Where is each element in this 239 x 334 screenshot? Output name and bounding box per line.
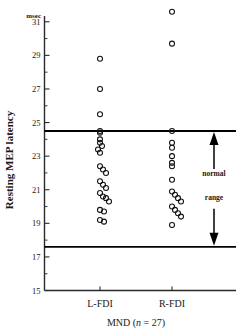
x-axis-category-label-left: L-FDI (87, 298, 113, 309)
y-axis-tick-label: 15 (32, 286, 41, 296)
y-axis-tick-label: 17 (32, 252, 41, 262)
figure-root: 151719212325272931 msec Resting MEP late… (0, 0, 239, 334)
y-axis-tick-label: 23 (32, 151, 41, 161)
normal-range-label-line2: range (205, 193, 224, 202)
y-axis-unit-label: msec (26, 12, 41, 20)
normal-range-label-line1: normal (202, 169, 225, 178)
y-axis-title: Resting MEP latency (3, 110, 15, 209)
y-axis-tick-label-group: 151719212325272931 (32, 17, 41, 296)
y-axis-tick-label: 25 (32, 118, 41, 128)
scatter-chart: 151719212325272931 msec Resting MEP late… (0, 0, 239, 334)
y-axis-tick-label: 27 (32, 84, 41, 94)
y-axis-tick-label: 21 (32, 185, 41, 195)
y-axis-tick-label: 19 (32, 218, 41, 228)
x-axis-category-label-right: R-FDI (159, 298, 185, 309)
x-axis-caption: MND (n = 27) (107, 317, 165, 329)
y-axis-tick-label: 29 (32, 50, 41, 60)
